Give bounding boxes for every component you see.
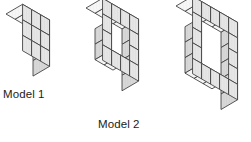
model-1-label: Model 1 [3, 88, 45, 100]
model-2-label: Model 2 [98, 118, 140, 130]
cube-models-figure: Model 1 Model 2 [0, 0, 251, 142]
